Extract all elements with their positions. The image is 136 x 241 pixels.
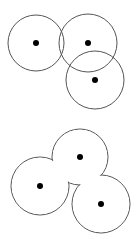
center-dot-2 [85,40,91,46]
union-center-dot-3 [98,201,104,207]
union-center-dot-1 [77,154,83,160]
center-dot-3 [92,77,98,83]
circles-diagram [0,0,136,241]
merged-circles-figure [11,129,130,233]
center-dot-1 [33,40,39,46]
overlapping-circles-figure [8,14,124,109]
union-center-dot-2 [37,183,43,189]
